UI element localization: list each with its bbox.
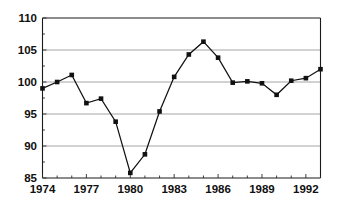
data-point-1983	[172, 75, 177, 80]
xtick-label-1989: 1989	[249, 183, 275, 195]
ytick-label-105: 105	[18, 44, 38, 56]
data-line-series-0	[43, 42, 321, 173]
data-point-1989	[260, 81, 265, 86]
data-point-1993	[318, 67, 323, 72]
data-point-1987	[230, 80, 235, 85]
data-point-1986	[216, 55, 221, 60]
data-point-1978	[99, 96, 104, 101]
data-point-1990	[274, 93, 279, 98]
data-point-1992	[304, 76, 309, 81]
data-point-1976	[69, 73, 74, 78]
xtick-label-1974: 1974	[30, 183, 56, 195]
data-point-1977	[84, 101, 89, 106]
data-point-1984	[187, 52, 192, 57]
line-chart: 1101051009590851974197719801983198619891…	[0, 0, 337, 210]
data-point-1981	[143, 152, 148, 157]
data-point-1988	[245, 79, 250, 84]
ytick-label-95: 95	[24, 108, 37, 120]
data-point-1985	[201, 39, 206, 44]
chart-canvas: 1101051009590851974197719801983198619891…	[0, 0, 337, 210]
ytick-label-100: 100	[18, 76, 37, 88]
xtick-label-1992: 1992	[293, 183, 319, 195]
data-point-1979	[113, 119, 118, 124]
xtick-label-1983: 1983	[161, 183, 187, 195]
xtick-label-1980: 1980	[117, 183, 143, 195]
data-point-1980	[128, 171, 133, 176]
xtick-label-1986: 1986	[205, 183, 231, 195]
data-point-1982	[157, 109, 162, 114]
data-point-1974	[40, 86, 45, 91]
data-point-1975	[55, 80, 60, 85]
ytick-label-90: 90	[24, 140, 37, 152]
data-point-1991	[289, 78, 294, 83]
ytick-label-110: 110	[18, 12, 37, 24]
xtick-label-1977: 1977	[74, 183, 100, 195]
